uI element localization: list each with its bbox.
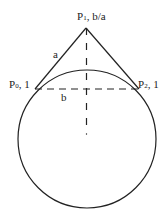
center-dot xyxy=(86,133,87,134)
tangent-line-right xyxy=(86,28,139,89)
label-p1: P1, b/a xyxy=(77,10,106,22)
label-p2: P2, 1 xyxy=(138,78,159,90)
label-p0: P0, 1 xyxy=(9,78,30,90)
tangent-line-left xyxy=(35,28,86,89)
label-a: a xyxy=(53,48,58,60)
label-b: b xyxy=(61,91,67,103)
conic-tangent-diagram: P1, b/a a P0, 1 P2, 1 b xyxy=(0,0,168,217)
